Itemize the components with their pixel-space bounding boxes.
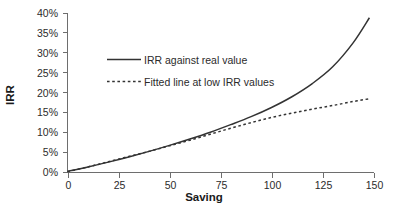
chart-background bbox=[0, 0, 394, 213]
x-tick-label: 125 bbox=[315, 179, 333, 191]
chart-container: 0%5%10%15%20%25%30%35%40% 02550751001251… bbox=[0, 0, 394, 213]
irr-vs-saving-line-chart: 0%5%10%15%20%25%30%35%40% 02550751001251… bbox=[0, 0, 394, 213]
x-tick-label: 0 bbox=[66, 179, 72, 191]
y-tick-label: 30% bbox=[37, 47, 58, 59]
y-tick-label: 35% bbox=[37, 27, 58, 39]
y-tick-label: 0% bbox=[43, 166, 58, 178]
y-tick-label: 25% bbox=[37, 67, 58, 79]
y-tick-label: 10% bbox=[37, 126, 58, 138]
legend-label-fitted-line-at-low-irr-values: Fitted line at low IRR values bbox=[144, 76, 274, 88]
y-tick-label: 40% bbox=[37, 7, 58, 19]
x-axis-title: Saving bbox=[185, 191, 223, 203]
x-tick-label: 150 bbox=[366, 179, 384, 191]
y-tick-label: 15% bbox=[37, 106, 58, 118]
x-tick-label: 75 bbox=[216, 179, 228, 191]
y-tick-label: 20% bbox=[37, 87, 58, 99]
x-tick-label: 50 bbox=[165, 179, 177, 191]
x-tick-label: 25 bbox=[114, 179, 126, 191]
y-axis-title: IRR bbox=[4, 84, 16, 105]
y-tick-label: 5% bbox=[43, 146, 58, 158]
legend-label-irr-against-real-value: IRR against real value bbox=[144, 54, 247, 66]
x-tick-label: 100 bbox=[264, 179, 282, 191]
